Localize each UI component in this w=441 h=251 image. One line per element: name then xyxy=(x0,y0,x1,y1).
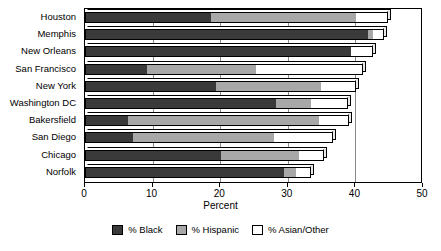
category-label: Bakersfield xyxy=(0,115,76,125)
bar-side-face xyxy=(324,147,327,158)
hispanic-swatch xyxy=(176,225,187,235)
axis-tick-label: 50 xyxy=(416,188,427,199)
asian-other-swatch xyxy=(252,225,263,235)
bar-row xyxy=(85,167,423,178)
axis-tick-label: 40 xyxy=(349,188,360,199)
bar-row xyxy=(85,98,423,109)
bar-segment xyxy=(373,29,384,40)
bar-side-face xyxy=(356,78,359,89)
bar-side-face xyxy=(363,61,366,72)
category-label: New Orleans xyxy=(0,46,76,56)
stacked-bar-chart: HoustonMemphisNew OrleansSan FranciscoNe… xyxy=(0,0,441,251)
bar-row xyxy=(85,64,423,75)
bar-segment xyxy=(147,64,256,75)
bar-segment xyxy=(85,81,216,92)
category-label: San Francisco xyxy=(0,64,76,74)
legend-label: % Black xyxy=(128,224,162,235)
bar-top-face xyxy=(85,78,359,81)
axis-tick xyxy=(219,183,220,187)
bar-side-face xyxy=(388,9,391,20)
category-label: San Diego xyxy=(0,132,76,142)
bar-side-face xyxy=(349,112,352,123)
bar-segment xyxy=(85,64,147,75)
category-label: Chicago xyxy=(0,150,76,160)
axis-tick xyxy=(422,183,423,187)
category-label: New York xyxy=(0,81,76,91)
bar-segment xyxy=(128,115,319,126)
bar-segment xyxy=(216,81,321,92)
bar-top-face xyxy=(85,164,314,167)
bar-segment xyxy=(85,46,351,57)
axis-tick xyxy=(152,183,153,187)
bar-top-face xyxy=(85,129,336,132)
category-label: Norfolk xyxy=(0,167,76,177)
bar-segment xyxy=(296,167,311,178)
bar-row xyxy=(85,29,423,40)
bar-top-face xyxy=(85,95,351,98)
bar-segment xyxy=(299,150,324,161)
legend-label: % Hispanic xyxy=(192,224,240,235)
bar-side-face xyxy=(333,129,336,140)
legend-label: % Asian/Other xyxy=(268,224,329,235)
axis-tick-label: 20 xyxy=(214,188,225,199)
bar-segment xyxy=(274,132,333,143)
bar-segment xyxy=(221,150,299,161)
bar-segment xyxy=(276,98,310,109)
legend-entry: % Asian/Other xyxy=(252,224,329,235)
bar-side-face xyxy=(348,95,351,106)
bar-row xyxy=(85,150,423,161)
bar-segment xyxy=(311,98,348,109)
category-label: Memphis xyxy=(0,29,76,39)
bar-segment xyxy=(85,150,221,161)
bar-segment xyxy=(85,29,368,40)
plot-area xyxy=(84,8,422,183)
bar-row xyxy=(85,81,423,92)
bar-segment xyxy=(356,12,388,23)
category-label: Houston xyxy=(0,12,76,22)
legend-entry: % Hispanic xyxy=(176,224,240,235)
bar-row xyxy=(85,132,423,143)
bar-segment xyxy=(85,167,284,178)
bar-segment xyxy=(319,115,349,126)
axis-tick-label: 30 xyxy=(281,188,292,199)
chart-legend: % Black% Hispanic% Asian/Other xyxy=(0,224,441,235)
bar-top-face xyxy=(85,43,376,46)
x-axis-title: Percent xyxy=(0,200,441,211)
axis-tick xyxy=(354,183,355,187)
bar-side-face xyxy=(311,164,314,175)
bar-row xyxy=(85,12,423,23)
bar-segment xyxy=(85,98,276,109)
bar-segment xyxy=(85,115,128,126)
bar-top-face xyxy=(85,147,327,150)
bar-row xyxy=(85,46,423,57)
bar-row xyxy=(85,115,423,126)
axis-tick-label: 10 xyxy=(146,188,157,199)
bar-segment xyxy=(211,12,356,23)
bar-side-face xyxy=(373,43,376,54)
legend-entry: % Black xyxy=(112,224,162,235)
bar-segment xyxy=(133,132,274,143)
bar-segment xyxy=(85,12,211,23)
bar-segment xyxy=(321,81,356,92)
bar-segment xyxy=(284,167,296,178)
bar-top-face xyxy=(85,61,366,64)
axis-tick xyxy=(287,183,288,187)
category-label: Washington DC xyxy=(0,98,76,108)
bar-top-face xyxy=(85,26,387,29)
bar-side-face xyxy=(384,26,387,37)
bar-segment xyxy=(256,64,363,75)
category-axis-labels: HoustonMemphisNew OrleansSan FranciscoNe… xyxy=(0,8,80,183)
bar-segment xyxy=(351,46,373,57)
black-swatch xyxy=(112,225,123,235)
bar-top-face xyxy=(85,9,391,12)
axis-tick-label: 0 xyxy=(81,188,87,199)
bar-segment xyxy=(85,132,133,143)
axis-tick xyxy=(84,183,85,187)
bar-top-face xyxy=(85,112,352,115)
